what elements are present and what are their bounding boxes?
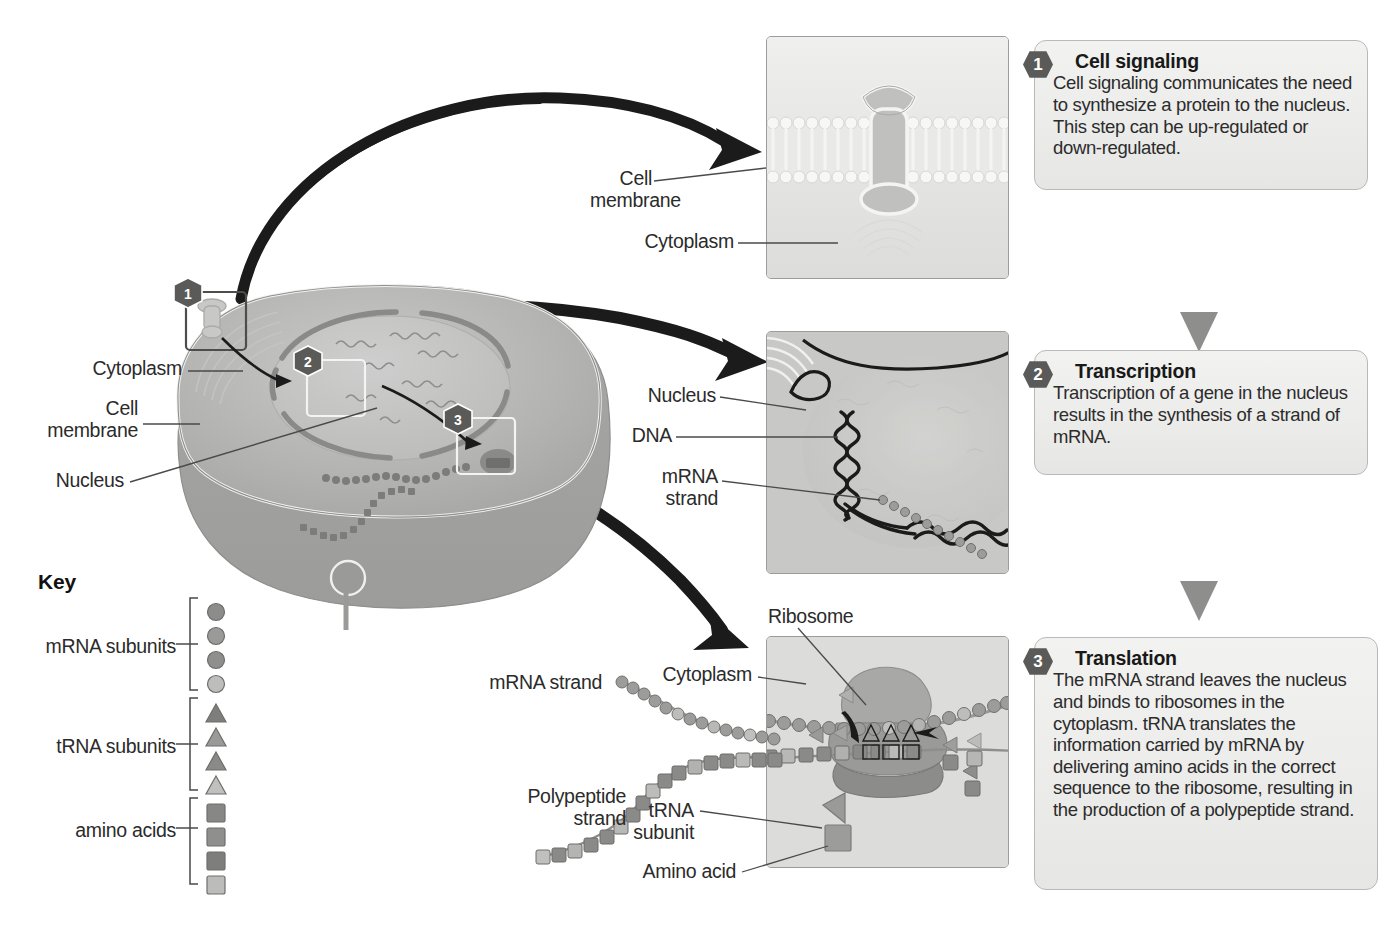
leader-p3-cytoplasm [758, 677, 806, 684]
key-label-amino-acids: amino acids [8, 820, 176, 842]
leader-p3-trna [700, 811, 822, 828]
callout-step-3: 3 Translation The mRNA strand leaves the… [1034, 637, 1378, 890]
key-title: Key [38, 570, 76, 594]
label-p3-cytoplasm: Cytoplasm [604, 664, 752, 686]
step-title-1: Cell signaling [1075, 51, 1353, 71]
step-body-1: Cell signaling communicates the need to … [1053, 72, 1353, 158]
step-body-2: Transcription of a gene in the nucleus r… [1053, 382, 1353, 447]
label-p3-trna-subunit: tRNA subunit [560, 800, 694, 844]
figure-root: 1 2 3 Cytoplasm Cell membrane Nucleus [0, 0, 1382, 927]
key-swatch-trna [206, 704, 226, 794]
key-swatch-amino [207, 804, 225, 894]
label-p3-mrna-strand: mRNA strand [420, 672, 602, 694]
label-p3-ribosome: Ribosome [768, 606, 853, 628]
step-body-3: The mRNA strand leaves the nucleus and b… [1053, 669, 1363, 820]
callout-step-1: 1 Cell signaling Cell signaling communic… [1034, 40, 1368, 190]
leader-p3-amino-acid [742, 846, 828, 872]
step-title-2: Transcription [1075, 361, 1353, 381]
label-p3-amino-acid: Amino acid [560, 861, 736, 883]
key-swatches [176, 596, 256, 896]
step-title-3: Translation [1075, 648, 1363, 668]
key-label-mrna-subunits: mRNA subunits [8, 636, 176, 658]
leader-p3-ribosome [798, 628, 866, 705]
key-swatch-mrna [208, 604, 225, 693]
key-label-trna-subunits: tRNA subunits [8, 736, 176, 758]
callout-step-2: 2 Transcription Transcription of a gene … [1034, 350, 1368, 475]
